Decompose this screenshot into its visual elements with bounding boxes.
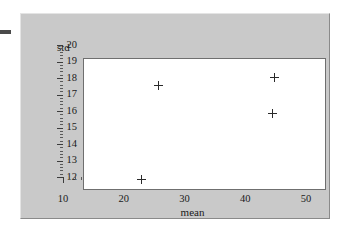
y-minor-tick [60,124,63,125]
y-minor-tick [60,154,63,155]
y-minor-tick [60,75,63,76]
y-minor-tick [60,52,63,53]
scatter-point [268,109,277,118]
y-minor-tick [60,170,63,171]
y-minor-tick [60,174,63,175]
plus-marker-vertical-icon [272,109,273,118]
y-minor-tick [60,85,63,86]
plus-marker-vertical-icon [274,73,275,82]
x-axis-title: mean [21,207,343,218]
scatter-point [270,73,279,82]
y-minor-tick [60,147,63,148]
x-tick-label-text: 30 [172,194,198,205]
x-major-tick [63,177,64,183]
x-tick-label: 40 [232,194,258,205]
y-major-tick [57,161,63,162]
x-tick-label: 10 [50,194,76,205]
y-minor-tick [60,167,63,168]
x-tick-label-text: 10 [50,194,76,205]
x-tick-label: 50 [293,194,319,205]
x-tick-label-text: 40 [232,194,258,205]
x-tick-label: 30 [172,194,198,205]
y-minor-tick [60,114,63,115]
y-minor-tick [60,118,63,119]
x-minor-tick [75,177,76,180]
y-major-tick [57,95,63,96]
y-major-tick [57,45,63,46]
y-minor-tick [60,108,63,109]
y-minor-tick [60,88,63,89]
plus-marker-vertical-icon [141,175,142,184]
y-major-tick [57,62,63,63]
y-minor-tick [60,137,63,138]
y-minor-tick [60,141,63,142]
y-minor-tick [60,81,63,82]
x-tick-label-text: 20 [111,194,137,205]
y-minor-tick [60,134,63,135]
left-margin-dash-icon [0,30,11,34]
y-major-tick [57,144,63,145]
y-major-tick [57,128,63,129]
figure-root: std mean 121314151617181920 1020304050 [0,0,343,233]
y-minor-tick [60,101,63,102]
y-minor-tick [60,91,63,92]
y-minor-tick [60,55,63,56]
y-minor-tick [60,164,63,165]
x-tick-label: 20 [111,194,137,205]
x-tick-label-text: 50 [293,194,319,205]
y-minor-tick [60,98,63,99]
scatter-point [154,81,163,90]
y-minor-tick [60,131,63,132]
plus-marker-vertical-icon [158,81,159,90]
y-minor-tick [60,58,63,59]
y-minor-tick [60,151,63,152]
y-major-tick [57,78,63,79]
y-minor-tick [60,121,63,122]
figure-panel: std mean 121314151617181920 1020304050 [20,13,330,219]
y-minor-tick [60,104,63,105]
y-minor-tick [60,68,63,69]
x-minor-tick [69,177,70,180]
scatter-point [137,175,146,184]
y-major-tick [57,111,63,112]
y-minor-tick [60,65,63,66]
y-minor-tick [60,48,63,49]
y-minor-tick [60,71,63,72]
x-minor-tick [81,177,82,180]
plot-area [83,58,326,190]
y-minor-tick [60,157,63,158]
